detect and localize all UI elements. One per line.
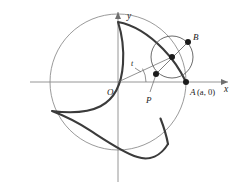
point-a-dot	[183, 79, 189, 85]
point-b-label: B	[193, 32, 199, 42]
point-p-dot	[153, 71, 159, 77]
point-p-leader	[150, 76, 156, 92]
angle-t-label: t	[131, 59, 134, 68]
rolling-circle-center-dot	[169, 54, 175, 60]
point-p-label: P	[145, 95, 152, 105]
point-a-label: A	[189, 87, 196, 97]
y-axis-label: y	[126, 11, 132, 21]
deltoid-diagram: x y O B P t A (a, 0)	[0, 0, 247, 189]
radius-o-to-rolling-center	[118, 57, 172, 82]
angle-t-leader	[135, 68, 141, 72]
y-axis-arrowhead	[115, 12, 121, 19]
origin-label: O	[107, 87, 114, 97]
figure-container: x y O B P t A (a, 0)	[0, 0, 247, 189]
x-axis-label: x	[223, 84, 229, 94]
point-b-dot	[185, 39, 191, 45]
deltoid-cusp-branch	[161, 119, 169, 145]
point-a-coordinates: (a, 0)	[197, 87, 215, 97]
